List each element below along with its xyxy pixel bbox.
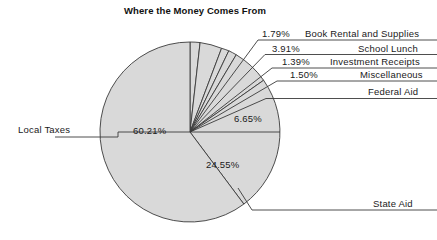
callout-percent-school-lunch: 3.91% [272, 43, 300, 54]
callout-percent-investment-receipts: 1.39% [282, 56, 310, 67]
slice-value-state-aid: 24.55% [206, 159, 239, 170]
callout-percent-book-rental-and-supplies: 1.79% [262, 28, 290, 39]
callout-label-federal-aid: Federal Aid [368, 86, 418, 97]
slice-value-local-taxes: 60.21% [133, 125, 166, 136]
callout-label-miscellaneous: Miscellaneous [360, 69, 423, 80]
callout-label-school-lunch: School Lunch [358, 43, 418, 54]
callout-label-investment-receipts: Investment Receipts [330, 56, 420, 67]
slice-value-federal-aid: 6.65% [234, 113, 262, 124]
callout-label-book-rental-and-supplies: Book Rental and Supplies [305, 28, 419, 39]
pie-chart-figure: Where the Money Comes From 1.79% Book Re… [0, 0, 437, 240]
callout-percent-miscellaneous: 1.50% [290, 69, 318, 80]
callout-label-local-taxes: Local Taxes [18, 124, 70, 135]
callout-label-state-aid: State Aid [373, 198, 413, 209]
